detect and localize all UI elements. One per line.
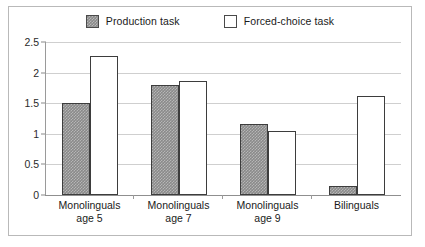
legend-swatch-forced-choice-task [224,15,237,28]
bar [268,131,296,195]
x-axis-label-line2: age 7 [134,212,223,225]
x-axis-label: Bilinguals [312,199,401,224]
bar [329,186,357,195]
x-axis-labels: Monolingualsage 5Monolingualsage 7Monoli… [45,199,401,224]
legend-label-forced-choice-task: Forced-choice task [244,15,335,27]
x-axis-label: Monolingualsage 7 [134,199,223,224]
bar-group [134,42,223,195]
bar [357,96,385,195]
plot-area: 00.511.522.5 [45,42,401,195]
x-axis-label: Monolingualsage 5 [45,199,134,224]
bar-group [45,42,134,195]
x-axis-label-line1: Bilinguals [312,199,401,212]
y-tick-label-2.5: 2.5 [24,36,39,48]
chart-legend: Production task Forced-choice task [9,11,411,31]
y-tick-label-2: 2 [33,67,39,79]
y-tick-label-1.5: 1.5 [24,97,39,109]
x-axis-label-line2: age 9 [223,212,312,225]
bar [151,85,179,195]
y-tick-label-0: 0 [33,189,39,201]
x-axis-label-line2: age 5 [45,212,134,225]
legend-item-forced-choice-task: Forced-choice task [224,15,335,28]
x-axis-label-line1: Monolinguals [134,199,223,212]
x-axis-label-line1: Monolinguals [45,199,134,212]
bar-group [312,42,401,195]
y-tick-label-0.5: 0.5 [24,158,39,170]
x-axis-label-line1: Monolinguals [223,199,312,212]
bar [90,56,118,195]
legend-item-production-task: Production task [86,15,180,28]
bar [179,81,207,195]
chart-figure: Production task Forced-choice task 00.51… [8,6,412,236]
x-axis-label: Monolingualsage 9 [223,199,312,224]
legend-swatch-production-task [86,15,99,28]
bar [240,124,268,195]
bar [62,103,90,195]
bar-groups [45,42,401,195]
y-tick-label-1: 1 [33,128,39,140]
bar-group [223,42,312,195]
gridline-0 [45,195,401,196]
legend-label-production-task: Production task [106,15,180,27]
